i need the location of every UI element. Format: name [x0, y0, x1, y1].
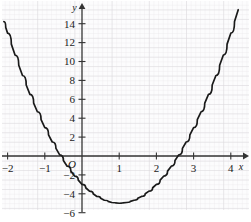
origin-label: O — [68, 158, 76, 170]
x-tick-label-1: 1 — [116, 162, 122, 174]
y-tick-label--4: −4 — [63, 188, 75, 200]
y-tick-label--6: −6 — [63, 207, 75, 219]
y-tick-label-6: 6 — [70, 93, 76, 105]
parabola-plot: −2 −1 1 2 3 4 2 4 6 8 10 12 14 −2 −4 −6 … — [0, 0, 251, 222]
x-tick-label--1: −1 — [39, 162, 51, 174]
x-tick-label-4: 4 — [228, 162, 234, 174]
x-axis-label: x — [238, 161, 244, 172]
x-tick-label-3: 3 — [191, 162, 197, 174]
y-tick-label-10: 10 — [64, 55, 76, 67]
x-tick-label--2: −2 — [2, 162, 14, 174]
x-tick-label-2: 2 — [154, 162, 160, 174]
y-axis-label: y — [71, 2, 77, 13]
y-tick-label-2: 2 — [70, 131, 76, 143]
y-tick-label-4: 4 — [70, 112, 76, 124]
y-tick-label-12: 12 — [64, 36, 75, 48]
grid-area — [2, 1, 249, 210]
y-tick-label-8: 8 — [70, 74, 76, 86]
major-gridlines — [2, 1, 249, 210]
y-tick-label-14: 14 — [64, 18, 76, 30]
graph-figure: −2 −1 1 2 3 4 2 4 6 8 10 12 14 −2 −4 −6 … — [0, 0, 251, 222]
